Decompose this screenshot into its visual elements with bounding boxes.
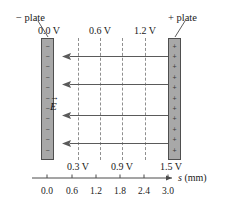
s-axis-tick-label-0: 0.0: [41, 186, 53, 196]
equipotential-voltage-label-3: 1.2 V: [134, 25, 156, 36]
plate-charge-symbol: +: [172, 117, 176, 122]
s-axis-tick-label-4: 2.4: [138, 186, 150, 196]
equipotential-voltage-label-2: 0.9 V: [111, 161, 133, 172]
plate-charge-symbol: −: [45, 86, 49, 91]
capacitor-field-diagram: − plate + plate −−−−−−−−−−− +++++++++++ …: [0, 0, 225, 201]
plate-charge-symbol: +: [172, 107, 176, 112]
electric-field-arrow-0: [62, 52, 168, 61]
plus-plate-callout-label: + plate: [168, 13, 197, 24]
plate-charge-symbol: +: [172, 55, 176, 60]
plate-charge-symbol: −: [45, 117, 49, 122]
s-axis-ticks: [47, 175, 168, 179]
voltage-label-right-plate: 1.5 V: [160, 161, 182, 172]
plate-charge-symbol: −: [45, 55, 49, 60]
positive-plate-charges: +++++++++++: [169, 39, 180, 159]
plate-charge-symbol: +: [172, 76, 176, 81]
arrowhead-icon: [62, 81, 71, 88]
s-axis-title: s (mm): [178, 172, 207, 183]
arrowhead-icon: [62, 140, 71, 147]
arrowhead-icon: [62, 53, 71, 60]
plate-charge-symbol: +: [172, 138, 176, 143]
electric-field-vector-label: → E: [50, 95, 59, 112]
voltage-label-left-plate: 0.0 V: [38, 25, 60, 36]
s-axis-tick-label-5: 3.0: [162, 186, 174, 196]
plate-charge-symbol: −: [45, 128, 49, 133]
plate-charge-symbol: −: [45, 97, 49, 102]
plate-charge-symbol: −: [45, 65, 49, 70]
plate-charge-symbol: +: [172, 45, 176, 50]
plate-charge-symbol: −: [45, 149, 49, 154]
equipotential-voltage-label-1: 0.6 V: [89, 25, 111, 36]
plate-charge-symbol: −: [45, 76, 49, 81]
plate-charge-symbol: +: [172, 128, 176, 133]
s-axis-tick-label-3: 1.8: [114, 186, 126, 196]
electric-field-arrow-1: [62, 80, 168, 89]
equipotential-voltage-label-0: 0.3 V: [67, 161, 89, 172]
plate-charge-symbol: +: [172, 65, 176, 70]
plate-charge-symbol: −: [45, 45, 49, 50]
minus-plate-callout-label: − plate: [16, 13, 45, 24]
positive-plate: +++++++++++: [168, 38, 181, 160]
plate-charge-symbol: −: [45, 107, 49, 112]
electric-field-arrow-2: [62, 111, 168, 120]
s-axis-variable: s: [178, 172, 182, 183]
plate-charge-symbol: +: [172, 149, 176, 154]
electric-field-symbol: E: [50, 100, 57, 112]
plate-charge-symbol: +: [172, 97, 176, 102]
plate-charge-symbol: +: [172, 86, 176, 91]
electric-field-arrow-3: [62, 139, 168, 148]
s-axis-units: (mm): [184, 172, 206, 183]
arrowhead-icon: [62, 112, 71, 119]
s-axis-tick-label-2: 1.2: [90, 186, 102, 196]
s-axis-arrowhead: [166, 175, 172, 180]
plate-charge-symbol: −: [45, 138, 49, 143]
s-axis-tick-label-1: 0.6: [66, 186, 78, 196]
